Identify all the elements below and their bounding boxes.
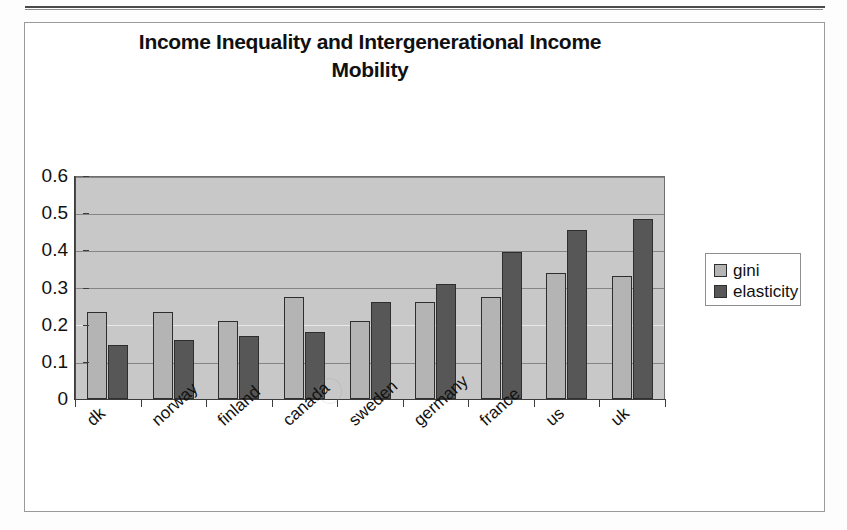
bar-gini-dk	[87, 312, 107, 399]
y-axis-line	[74, 176, 75, 400]
bar-gini-canada	[284, 297, 304, 399]
bar-gini-uk	[612, 276, 632, 399]
bar-elasticity-us	[567, 230, 587, 399]
bar-gini-finland	[218, 321, 238, 399]
bar-gini-france	[481, 297, 501, 399]
bar-elasticity-france	[502, 252, 522, 399]
y-axis-tick-mark	[83, 399, 89, 400]
y-axis-tick-mark	[83, 288, 89, 289]
y-axis-tick-label: 0.2	[22, 315, 68, 334]
page-header-rule-shadow	[25, 9, 823, 10]
chart-title-line-2: Mobility	[60, 56, 680, 84]
bar-elasticity-dk	[108, 345, 128, 399]
y-axis-tick-mark	[83, 325, 89, 326]
legend-item-gini: gini	[714, 262, 759, 279]
legend-item-elasticity: elasticity	[714, 283, 798, 300]
bars-layer	[75, 176, 665, 399]
y-axis-tick-label: 0.5	[22, 203, 68, 222]
x-axis-tick-mark	[75, 399, 76, 407]
x-axis-tick-mark	[337, 399, 338, 407]
bar-gini-germany	[415, 302, 435, 399]
page-header-rule	[25, 6, 825, 8]
y-axis-tick-mark	[83, 250, 89, 251]
y-axis-tick-mark	[83, 362, 89, 363]
y-axis-tick-label: 0.4	[22, 240, 68, 259]
y-axis-tick-label: 0.1	[22, 352, 68, 371]
legend-label-gini: gini	[733, 262, 759, 279]
chart-title: Income Inequality and Intergenerational …	[60, 28, 680, 84]
x-axis-tick-mark	[141, 399, 142, 407]
y-axis-tick-mark	[83, 213, 89, 214]
chart-legend: gini elasticity	[705, 253, 801, 306]
y-axis-tick-mark	[83, 176, 89, 177]
chart-title-line-1: Income Inequality and Intergenerational …	[60, 28, 680, 56]
bar-gini-norway	[153, 312, 173, 399]
x-axis-tick-mark	[665, 399, 666, 407]
y-axis-tick-label: 0.3	[22, 278, 68, 297]
bar-gini-sweden	[350, 321, 370, 399]
legend-swatch-gini	[714, 264, 727, 277]
x-axis-tick-mark	[272, 399, 273, 407]
legend-label-elasticity: elasticity	[733, 283, 798, 300]
y-axis-tick-label: 0.6	[22, 166, 68, 185]
bar-gini-us	[546, 273, 566, 399]
bar-elasticity-uk	[633, 219, 653, 399]
x-axis-tick-mark	[206, 399, 207, 407]
legend-swatch-elasticity	[714, 285, 727, 298]
y-axis-tick-labels: 0.60.50.40.30.20.10	[14, 0, 68, 530]
x-axis-tick-mark	[534, 399, 535, 407]
page-root: Income Inequality and Intergenerational …	[0, 0, 847, 530]
x-axis-tick-mark	[403, 399, 404, 407]
x-axis-tick-mark	[468, 399, 469, 407]
y-axis-tick-label: 0	[22, 389, 68, 408]
x-axis-tick-mark	[599, 399, 600, 407]
